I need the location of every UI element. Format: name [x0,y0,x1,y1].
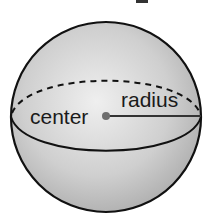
center-label: center [30,105,88,128]
sphere-diagram: center radius [0,0,220,215]
cropped-title-fragment [136,0,148,3]
radius-label: radius [121,88,178,111]
center-point [102,112,110,120]
sphere-figure: center radius [0,0,220,215]
